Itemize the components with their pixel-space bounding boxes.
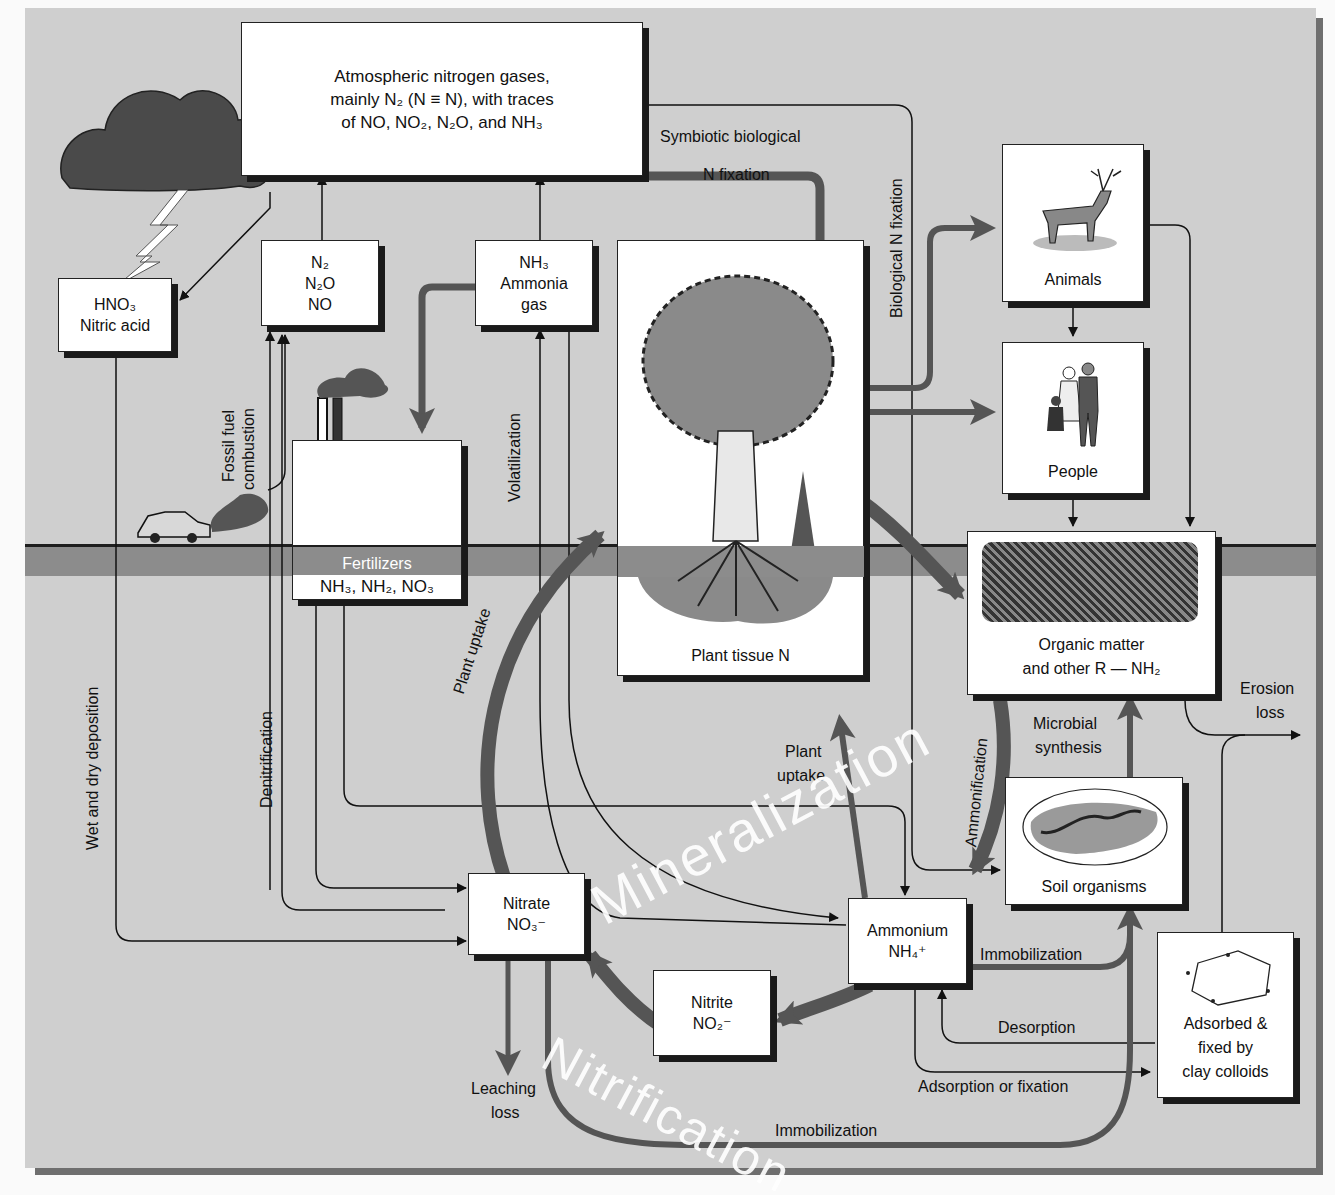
nitrite-node: Nitrite NO₂⁻ bbox=[653, 970, 771, 1056]
deer-icon bbox=[1003, 151, 1145, 261]
nitrate-node: Nitrate NO₃⁻ bbox=[468, 873, 585, 955]
car-icon bbox=[138, 494, 268, 543]
fossil-fuel-label-1: Fossil fuel bbox=[220, 410, 238, 482]
ammonia-label: Ammonia bbox=[500, 273, 568, 294]
fertilizers-title: Fertilizers bbox=[293, 555, 461, 573]
plant-tissue-label: Plant tissue N bbox=[618, 647, 863, 665]
clay-colloids-node: Adsorbed & fixed by clay colloids bbox=[1157, 932, 1294, 1098]
gas-label: gas bbox=[521, 294, 547, 315]
biological-n-fixation-label: Biological N fixation bbox=[888, 178, 906, 318]
atmosphere-node: Atmospheric nitrogen gases, mainly N₂ (N… bbox=[241, 22, 643, 176]
animals-node: Animals bbox=[1002, 144, 1144, 302]
immobilization-lower-label: Immobilization bbox=[775, 1120, 877, 1141]
storm-cloud-icon bbox=[61, 91, 271, 285]
soil-organisms-label: Soil organisms bbox=[1006, 878, 1182, 896]
ammonium-formula: NH₄⁺ bbox=[888, 941, 926, 962]
nitric-acid-formula: HNO₃ bbox=[94, 294, 136, 315]
wet-dry-deposition-label: Wet and dry deposition bbox=[84, 687, 102, 850]
tree-icon bbox=[618, 241, 865, 641]
worm-icon bbox=[1006, 782, 1184, 872]
microbial-synthesis-label-2: synthesis bbox=[1035, 737, 1102, 758]
clay-line-3: clay colloids bbox=[1158, 1063, 1293, 1081]
denitrification-label: Denitrification bbox=[258, 711, 276, 808]
symbiotic-label-1: Symbiotic biological bbox=[660, 126, 801, 147]
ammonia-gas-node: NH₃ Ammonia gas bbox=[475, 240, 593, 326]
nitric-acid-node: HNO₃ Nitric acid bbox=[58, 278, 172, 352]
erosion-loss-label-2: loss bbox=[1256, 702, 1284, 723]
symbiotic-label-2: N fixation bbox=[703, 164, 770, 185]
nitrite-formula: NO₂⁻ bbox=[693, 1013, 732, 1034]
clay-line-2: fixed by bbox=[1158, 1039, 1293, 1057]
nitric-acid-label: Nitric acid bbox=[80, 315, 150, 336]
adsorption-label: Adsorption or fixation bbox=[918, 1076, 1068, 1097]
erosion-loss-label-1: Erosion bbox=[1240, 678, 1294, 699]
soil-organisms-node: Soil organisms bbox=[1005, 777, 1183, 905]
organic-matter-line-2: and other R — NH₂ bbox=[968, 660, 1215, 678]
atmosphere-line-3: of NO, NO₂, N₂O, and NH₃ bbox=[341, 111, 543, 134]
nh3-label: NH₃ bbox=[519, 252, 549, 273]
atmosphere-line-2: mainly N₂ (N ≡ N), with traces bbox=[330, 88, 553, 111]
leaching-loss-label-1: Leaching bbox=[471, 1078, 536, 1099]
n2-label: N₂ bbox=[311, 252, 329, 273]
immobilization-upper-label: Immobilization bbox=[980, 944, 1082, 965]
no-label: NO bbox=[308, 294, 332, 315]
animals-label: Animals bbox=[1003, 271, 1143, 289]
volatilization-label: Volatilization bbox=[506, 413, 524, 502]
microbial-synthesis-label-1: Microbial bbox=[1033, 713, 1097, 734]
people-node: People bbox=[1002, 342, 1144, 494]
n2o-label: N₂O bbox=[305, 273, 335, 294]
people-icon bbox=[1003, 351, 1145, 461]
organic-matter-line-1: Organic matter bbox=[968, 636, 1215, 654]
ammonium-node: Ammonium NH₄⁺ bbox=[848, 898, 967, 984]
people-label: People bbox=[1003, 463, 1143, 481]
desorption-label: Desorption bbox=[998, 1017, 1075, 1038]
atmosphere-line-1: Atmospheric nitrogen gases, bbox=[334, 65, 549, 88]
fertilizers-node: Fertilizers NH₃, NH₂, NO₃ bbox=[292, 440, 462, 600]
nitrite-label: Nitrite bbox=[691, 992, 733, 1013]
nitrate-label: Nitrate bbox=[503, 893, 550, 914]
leaching-loss-label-2: loss bbox=[491, 1102, 519, 1123]
fossil-fuel-label-2: combustion bbox=[240, 408, 258, 490]
ammonium-label: Ammonium bbox=[867, 920, 948, 941]
organic-matter-node: Organic matter and other R — NH₂ bbox=[967, 531, 1216, 695]
nitrate-formula: NO₃⁻ bbox=[507, 914, 546, 935]
nitrogen-gases-node: N₂ N₂O NO bbox=[261, 240, 379, 326]
fertilizers-formula: NH₃, NH₂, NO₃ bbox=[293, 577, 461, 597]
plant-tissue-node: Plant tissue N bbox=[617, 240, 864, 676]
clay-particle-icon bbox=[1158, 943, 1295, 1013]
organic-matter-illustration bbox=[982, 542, 1198, 622]
clay-line-1: Adsorbed & bbox=[1158, 1015, 1293, 1033]
